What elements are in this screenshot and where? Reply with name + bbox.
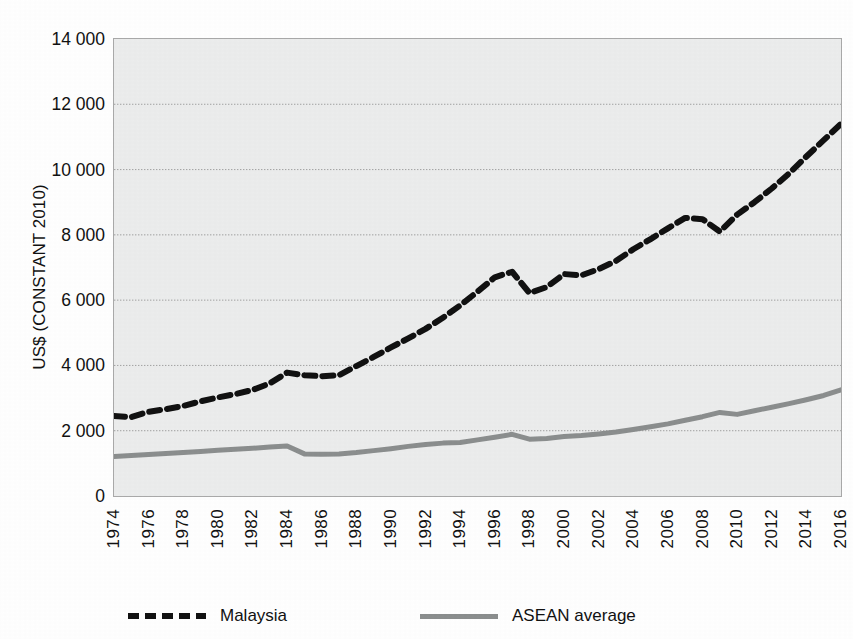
- x-tick-label: 1998: [519, 509, 539, 548]
- series-canvas: [114, 39, 841, 496]
- x-tick-label: 1988: [346, 509, 366, 548]
- x-tick-label: 1992: [416, 509, 436, 548]
- x-tick-label: 2004: [623, 509, 643, 548]
- x-tick-label: 2002: [589, 509, 609, 548]
- legend-label: Malaysia: [220, 606, 287, 626]
- x-tick-label: 2010: [727, 509, 747, 548]
- y-tick-label: 2 000: [5, 420, 105, 441]
- x-tick-label: 1976: [139, 509, 159, 548]
- chart-legend: MalaysiaASEAN average: [0, 598, 853, 638]
- y-tick-label: 6 000: [5, 290, 105, 311]
- x-tick-label: 1986: [312, 509, 332, 548]
- x-tick-label: 2016: [831, 509, 851, 548]
- x-tick-label: 1984: [277, 509, 297, 548]
- x-tick-label: 2008: [693, 509, 713, 548]
- x-tick-label: 2012: [762, 509, 782, 548]
- x-tick-label: 1996: [485, 509, 505, 548]
- x-tick-label: 2000: [554, 509, 574, 548]
- y-tick-label: 14 000: [5, 29, 105, 50]
- x-tick-label: 2014: [796, 509, 816, 548]
- chart-figure: US$ (CONSTANT 2010) 02 0004 0006 0008 00…: [0, 0, 853, 639]
- series-line-malaysia: [114, 124, 841, 417]
- x-tick-label: 1980: [208, 509, 228, 548]
- y-tick-label: 8 000: [5, 224, 105, 245]
- series-line-asean-average: [114, 390, 841, 457]
- y-tick-label: 4 000: [5, 355, 105, 376]
- legend-swatch-dashed: [128, 613, 206, 619]
- y-axis-tick-labels: 02 0004 0006 0008 00010 00012 00014 000: [0, 0, 105, 639]
- legend-item-malaysia[interactable]: Malaysia: [128, 606, 287, 626]
- x-tick-label: 1990: [381, 509, 401, 548]
- gridlines: [114, 104, 841, 430]
- legend-label: ASEAN average: [512, 606, 636, 626]
- x-tick-label: 1974: [104, 509, 124, 548]
- legend-item-asean-average[interactable]: ASEAN average: [420, 606, 636, 626]
- x-tick-label: 1978: [173, 509, 193, 548]
- x-tick-label: 1994: [450, 509, 470, 548]
- y-tick-label: 12 000: [5, 94, 105, 115]
- data-series-layer: [114, 124, 841, 457]
- legend-swatch-solid: [420, 614, 498, 619]
- x-tick-label: 2006: [658, 509, 678, 548]
- plot-area: [113, 38, 842, 497]
- x-tick-label: 1982: [242, 509, 262, 548]
- y-tick-label: 10 000: [5, 159, 105, 180]
- x-axis-tick-labels: 1974197619781980198219841986198819901992…: [113, 505, 842, 585]
- y-tick-label: 0: [5, 486, 105, 507]
